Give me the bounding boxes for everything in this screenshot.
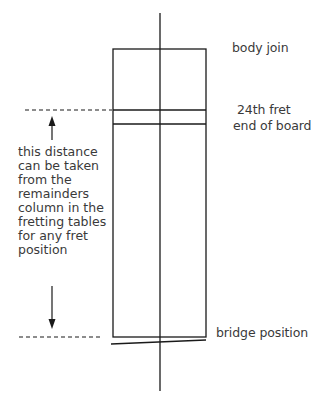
arrow-up-icon: [49, 116, 56, 140]
arrow-down-icon: [49, 286, 56, 329]
note-line: position: [18, 243, 128, 257]
label-body-join: body join: [232, 41, 289, 56]
label-24th-fret: 24th fret: [237, 103, 291, 118]
note-line: remainders: [18, 187, 128, 201]
note-line: this distance: [18, 145, 128, 159]
bridge-line: [111, 340, 206, 344]
note-line: fretting tables: [18, 215, 128, 229]
distance-note: this distance can be taken from the rema…: [18, 145, 128, 257]
label-bridge-position: bridge position: [216, 326, 308, 341]
note-line: for any fret: [18, 229, 128, 243]
note-line: can be taken: [18, 159, 128, 173]
label-end-of-board: end of board: [233, 119, 311, 134]
note-line: from the: [18, 173, 128, 187]
note-line: column in the: [18, 201, 128, 215]
